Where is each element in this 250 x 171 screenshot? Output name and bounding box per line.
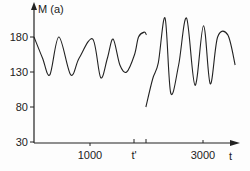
y-label-30: 30	[16, 136, 28, 148]
y-axis-arrow-icon	[31, 2, 37, 10]
chart: M (a) t 180 130 80 30 1000 t' 3000	[0, 0, 250, 171]
x-label-t-prime: t'	[131, 149, 136, 161]
y-label-80: 80	[16, 101, 28, 113]
series-after-t-prime	[146, 18, 235, 107]
series-before-t-prime	[34, 32, 146, 78]
y-axis-title: M (a)	[38, 3, 64, 15]
x-label-3000: 3000	[191, 149, 215, 161]
x-axis-title: t	[229, 150, 232, 162]
x-axis-arrow-icon	[230, 140, 240, 146]
y-label-130: 130	[10, 66, 28, 78]
x-label-1000: 1000	[78, 149, 102, 161]
y-label-180: 180	[10, 31, 28, 43]
